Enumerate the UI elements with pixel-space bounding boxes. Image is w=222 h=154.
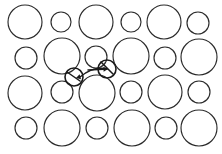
figure-canvas bbox=[0, 0, 222, 154]
circle-detection-figure bbox=[0, 0, 222, 154]
arrow-right-shaft bbox=[88, 69, 104, 70]
